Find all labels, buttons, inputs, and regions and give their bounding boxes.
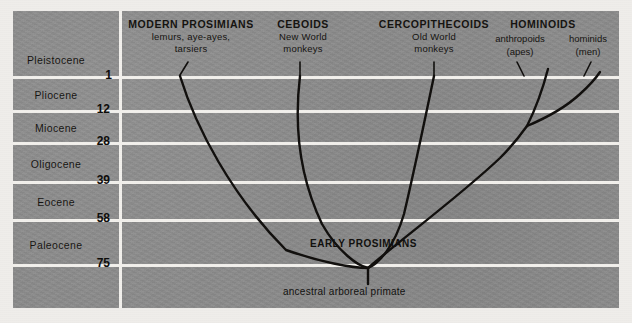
group-sub2-hominids: (men) (576, 46, 601, 57)
group-sub2-anthropoids: (apes) (507, 46, 534, 57)
group-sub1-anthropoids: anthropoids (495, 33, 545, 44)
group-sub2-ceboids: monkeys (248, 43, 358, 56)
group-sub1-hominids: hominids (569, 33, 607, 44)
group-header-modern-prosimians: MODERN PROSIMIANS lemurs, aye-ayes, tars… (116, 18, 266, 56)
group-header-hominoids: HOMINOIDS (482, 18, 604, 31)
group-title-hominoids: HOMINOIDS (482, 18, 604, 31)
group-sub2-modern-prosimians: tarsiers (116, 43, 266, 56)
group-header-ceboids: CEBOIDS New World monkeys (248, 18, 358, 56)
group-title-modern-prosimians: MODERN PROSIMIANS (116, 18, 266, 31)
group-sub-hominids: hominids (men) (557, 33, 619, 58)
leader-tick-anthropoids (517, 62, 524, 76)
group-sub-anthropoids: anthropoids (apes) (486, 33, 554, 58)
annotation-early-prosimians: EARLY PROSIMIANS (310, 238, 417, 249)
group-sub1-ceboids: New World (248, 31, 358, 44)
figure-page: Pleistocene Pliocene Miocene Oligocene E… (0, 0, 632, 323)
leader-tick-modern-prosimians (180, 62, 188, 75)
leader-tick-hominids (584, 62, 591, 76)
annotation-ancestral-arboreal-primate: ancestral arboreal primate (283, 286, 406, 297)
group-title-ceboids: CEBOIDS (248, 18, 358, 31)
group-sub1-modern-prosimians: lemurs, aye-ayes, (116, 31, 266, 44)
